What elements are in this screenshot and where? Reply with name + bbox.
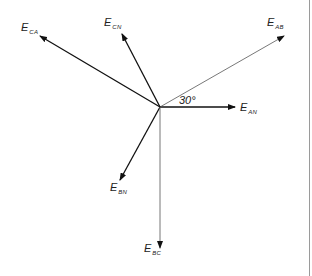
phasor-ebn-arrow [120, 107, 160, 180]
phasor-diagram [0, 0, 312, 276]
label-ean: EAN [240, 102, 257, 113]
label-ebn: EBN [110, 182, 127, 193]
label-eab: EAB [267, 17, 284, 28]
angle-label: 30° [179, 94, 196, 106]
right-border-line [309, 0, 310, 276]
label-eca: ECA [21, 22, 38, 33]
label-ebc: EBC [144, 243, 161, 254]
label-ecn: ECN [104, 17, 121, 28]
